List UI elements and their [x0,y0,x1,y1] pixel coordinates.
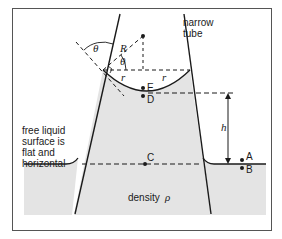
point-C-label: C [147,152,154,163]
capillary-rise-diagram: narrow tube free liquid surface is flat … [0,0,282,239]
theta-outer-label: θ [93,42,99,54]
point-E-label: E [147,82,154,93]
point-D-label: D [147,94,154,105]
tube-label-line1: narrow [183,17,214,28]
point-B-dot [240,166,244,170]
density-symbol: ρ [164,191,170,203]
free-surface-label-line3: flat and [22,147,55,158]
radius-r-right-label: r [162,71,167,83]
density-label: density [128,192,160,203]
free-surface-label-line1: free liquid [22,125,65,136]
reservoir-liquid-right [203,158,266,215]
point-E-dot [141,86,145,90]
point-B-label: B [246,164,253,175]
radius-R-label: R [119,42,127,54]
point-A-label: A [246,151,253,162]
tube-label-line2: tube [183,28,203,39]
height-h-label: h [221,121,227,133]
radius-r-left-label: r [121,71,126,83]
free-surface-label-line4: horizontal [22,158,65,169]
theta-inner-label: θ [120,55,126,67]
free-surface-label-line2: surface is [22,136,65,147]
point-D-dot [141,94,145,98]
point-A-dot [240,158,244,162]
